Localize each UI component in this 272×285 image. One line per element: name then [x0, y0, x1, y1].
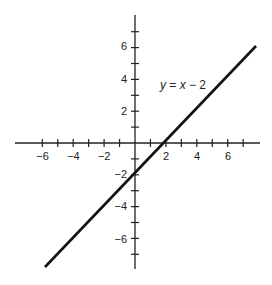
- x-tick-label: 2: [163, 150, 169, 162]
- y-tick-label: −2: [114, 168, 127, 180]
- y-tick-label: 4: [121, 73, 127, 85]
- equation-label: y = x − 2: [159, 78, 206, 92]
- equation-tail: − 2: [186, 78, 207, 92]
- x-tick-label: −2: [98, 150, 111, 162]
- y-tick-label: −4: [114, 200, 127, 212]
- y-tick-label: −6: [114, 233, 127, 245]
- y-tick-label: 2: [121, 105, 127, 117]
- y-tick-label: 6: [121, 40, 127, 52]
- x-tick-label: −6: [36, 150, 49, 162]
- x-tick-label: 4: [194, 150, 200, 162]
- x-tick-label: −4: [67, 150, 80, 162]
- axes: [15, 15, 260, 269]
- equation-equals: =: [166, 78, 180, 92]
- line-chart: −6 −4 −2 2 4 6 6 4 2 −2 −4 −6 y = x − 2: [0, 0, 272, 285]
- x-tick-labels: −6 −4 −2 2 4 6: [36, 150, 231, 162]
- x-tick-label: 6: [225, 150, 231, 162]
